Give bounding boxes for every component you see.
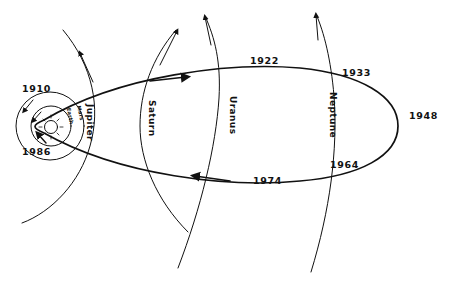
halley-orbit-diagram: 1910 1986 1922 1933 1948 1964 1974 Jupit…	[0, 0, 451, 283]
sun-rays-icon	[39, 115, 63, 139]
planet-label-neptune: Neptune	[328, 92, 338, 138]
mars-orbit-arrow-icon	[24, 100, 33, 111]
planet-label-jupiter: Jupiter	[85, 104, 95, 141]
uranus-orbit-arc	[178, 16, 219, 268]
sun-icon	[45, 121, 58, 134]
year-label-1910: 1910	[22, 83, 51, 94]
orbit-drawing	[0, 0, 451, 283]
uranus-orbit-arrow-icon	[205, 17, 211, 45]
planet-label-saturn: Saturn	[147, 100, 157, 137]
year-label-1986: 1986	[22, 146, 51, 157]
neptune-orbit-arc	[311, 14, 335, 272]
year-label-1948: 1948	[409, 110, 438, 121]
year-label-1974: 1974	[253, 175, 282, 186]
year-label-1922: 1922	[250, 55, 279, 66]
jupiter-orbit-arrow-icon	[80, 53, 93, 82]
earth-orbit-arrow-icon	[33, 112, 41, 121]
planet-label-uranus: Uranus	[228, 96, 238, 134]
year-label-1964: 1964	[330, 159, 359, 170]
year-label-1933: 1933	[342, 67, 371, 78]
earth-orbit	[31, 106, 71, 146]
